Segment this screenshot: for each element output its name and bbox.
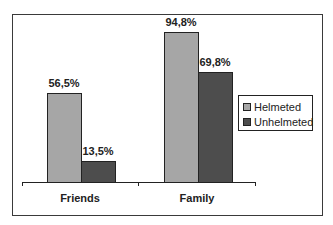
value-label: 94,8% [156, 16, 206, 28]
x-axis-tick [22, 182, 23, 186]
x-axis-tick [255, 182, 256, 186]
bar-friends-helmeted [47, 93, 82, 183]
bar-family-unhelmeted [198, 72, 233, 183]
category-label-family: Family [157, 192, 237, 204]
x-axis-tick [138, 182, 139, 186]
bar-friends-unhelmeted [81, 161, 116, 183]
bar-family-helmeted [164, 32, 199, 183]
legend-item-helmeted: Helmeted [243, 101, 301, 113]
value-label: 56,5% [39, 77, 89, 89]
legend-label-helmeted: Helmeted [254, 101, 301, 113]
category-label-friends: Friends [40, 192, 120, 204]
legend-label-unhelmeted: Unhelmeted [254, 116, 313, 128]
legend-item-unhelmeted: Unhelmeted [243, 116, 313, 128]
value-label: 13,5% [73, 145, 123, 157]
value-label: 69,8% [190, 56, 240, 68]
legend-swatch-unhelmeted [243, 118, 251, 126]
legend: Helmeted Unhelmeted [238, 95, 313, 131]
legend-swatch-helmeted [243, 103, 251, 111]
